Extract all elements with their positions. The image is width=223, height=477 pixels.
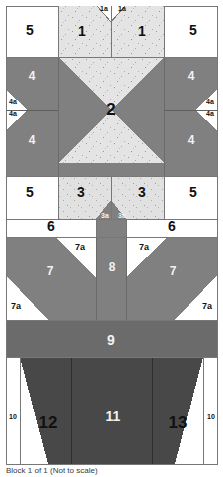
piece-10-left-shape [6,357,20,464]
row-1-group [6,6,217,57]
row-6-group [6,320,217,357]
piece-3a-tail [96,219,126,237]
quilt-block-diagram [0,0,223,470]
piece-9-shape [6,320,217,357]
row-2-group [6,57,217,176]
figure-caption: Block 1 of 1 (Not to scale) [6,465,216,476]
row-3-group [6,176,217,219]
diagram-canvas [0,0,223,470]
piece-10-right-shape [203,357,217,464]
row-7-group [6,357,217,464]
row-4-group [6,219,217,237]
basket-trapezoid [20,357,203,464]
quilt-block-diagram-figure: 5 1 1a 1a 1 5 4 4 4a 4a 4a 4a 2 4 4 5 3 … [0,0,223,477]
piece-8-shape [96,237,126,320]
row-5-group [6,237,217,320]
